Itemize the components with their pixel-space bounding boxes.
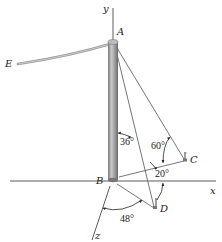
wire-AE — [18, 44, 110, 64]
label-axis-y: y — [103, 4, 109, 14]
diagram-graphics — [0, 0, 222, 242]
label-point-E: E — [5, 59, 12, 69]
anchor-D — [153, 198, 157, 209]
label-angle-36: 36° — [120, 137, 134, 147]
label-point-D: D — [160, 204, 168, 214]
label-point-A: A — [117, 27, 124, 37]
label-angle-60: 60° — [151, 141, 165, 151]
label-point-C: C — [190, 155, 198, 165]
pole-cable-diagram: A B C D E y x z 36° 60° 20° 48° — [0, 0, 222, 242]
anchor-C — [183, 152, 187, 162]
angle-arc-48 — [103, 200, 142, 210]
label-point-B: B — [96, 176, 103, 186]
label-angle-20: 20° — [155, 169, 169, 179]
label-axis-x: x — [210, 186, 216, 196]
label-angle-48: 48° — [120, 214, 134, 224]
pole-AB — [108, 40, 118, 183]
label-axis-z: z — [95, 231, 100, 241]
cable-AD — [116, 50, 154, 207]
